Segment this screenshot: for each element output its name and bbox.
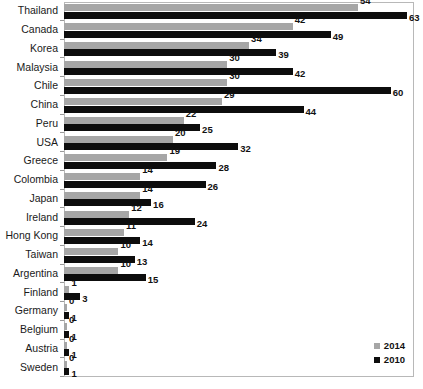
axis-tick: [60, 376, 64, 377]
category-row: Greece1928: [0, 152, 423, 171]
category-row: Ireland1224: [0, 208, 423, 227]
legend-swatch-icon: [374, 343, 380, 349]
category-row: Argentina1015: [0, 265, 423, 284]
category-row: Chile3060: [0, 77, 423, 96]
bar-2010-malaysia: [64, 68, 293, 75]
legend-swatch-icon: [374, 357, 380, 363]
bar-value-2014-finland: 1: [71, 278, 76, 288]
bar-2014-korea: [64, 42, 249, 49]
category-label-china: China: [0, 99, 58, 110]
bar-2010-colombia: [64, 181, 206, 188]
bar-value-2014-chile: 30: [229, 71, 240, 81]
category-label-chile: Chile: [0, 80, 58, 91]
category-row: Canada4249: [0, 21, 423, 40]
bar-2014-thailand: [64, 4, 358, 11]
category-row: Thailand5463: [0, 2, 423, 21]
category-label-malaysia: Malaysia: [0, 62, 58, 73]
category-label-greece: Greece: [0, 155, 58, 166]
category-row: Malaysia3042: [0, 58, 423, 77]
bar-2014-colombia: [64, 173, 140, 180]
bar-value-2014-belgium: 0: [69, 315, 74, 325]
legend-item-2010[interactable]: 2010: [374, 353, 405, 367]
bar-2014-austria: [64, 342, 67, 349]
bar-value-2014-china: 29: [224, 90, 235, 100]
category-label-germany: Germany: [0, 305, 58, 316]
bar-value-2014-greece: 19: [169, 146, 180, 156]
bar-value-2014-sweden: 0: [69, 353, 74, 363]
bar-2014-greece: [64, 154, 167, 161]
category-row: USA2032: [0, 133, 423, 152]
chart-legend: 20142010: [374, 339, 405, 367]
category-label-belgium: Belgium: [0, 324, 58, 335]
bar-value-2014-argentina: 10: [120, 259, 131, 269]
category-label-thailand: Thailand: [0, 5, 58, 16]
category-row: Belgium01: [0, 321, 423, 340]
bar-value-2014-austria: 0: [69, 334, 74, 344]
bar-value-2014-hong-kong: 11: [126, 221, 136, 231]
category-row: Hong Kong1114: [0, 227, 423, 246]
bar-2014-argentina: [64, 267, 118, 274]
bar-2014-canada: [64, 23, 293, 30]
category-row: Peru2225: [0, 115, 423, 134]
bar-value-2014-japan: 14: [142, 184, 153, 194]
bar-2014-chile: [64, 79, 227, 86]
bar-chart: Thailand5463Canada4249Korea3439Malaysia3…: [0, 0, 423, 389]
bar-2010-sweden: [64, 368, 69, 375]
category-row: China2944: [0, 96, 423, 115]
bar-2014-malaysia: [64, 61, 227, 68]
category-label-finland: Finland: [0, 287, 58, 298]
bar-value-2010-sweden: 1: [71, 369, 76, 379]
bar-2014-peru: [64, 117, 184, 124]
category-label-sweden: Sweden: [0, 362, 58, 373]
bar-2014-hong-kong: [64, 229, 124, 236]
bar-2010-greece: [64, 162, 216, 169]
bar-value-2014-colombia: 14: [142, 165, 153, 175]
category-row: Austria01: [0, 340, 423, 359]
category-label-colombia: Colombia: [0, 174, 58, 185]
bar-2010-canada: [64, 31, 331, 38]
bar-value-2014-usa: 20: [175, 128, 186, 138]
bar-2014-sweden: [64, 361, 67, 368]
bar-2014-belgium: [64, 323, 67, 330]
category-row: Germany01: [0, 302, 423, 321]
category-row: Colombia1426: [0, 171, 423, 190]
category-label-hong-kong: Hong Kong: [0, 230, 58, 241]
bar-value-2014-canada: 42: [295, 15, 306, 25]
category-row: Sweden01: [0, 358, 423, 377]
legend-label: 2010: [384, 353, 405, 367]
bar-2014-china: [64, 98, 222, 105]
category-label-austria: Austria: [0, 343, 58, 354]
bar-2014-usa: [64, 136, 173, 143]
bar-2014-germany: [64, 304, 67, 311]
category-label-korea: Korea: [0, 43, 58, 54]
category-label-argentina: Argentina: [0, 268, 58, 279]
bar-value-2014-malaysia: 30: [229, 53, 240, 63]
legend-item-2014[interactable]: 2014: [374, 339, 405, 353]
bar-2014-ireland: [64, 211, 129, 218]
category-label-taiwan: Taiwan: [0, 249, 58, 260]
bar-2010-thailand: [64, 12, 407, 19]
bar-2014-finland: [64, 286, 69, 293]
bar-2010-china: [64, 106, 304, 113]
category-label-ireland: Ireland: [0, 212, 58, 223]
bar-value-2014-taiwan: 10: [120, 240, 131, 250]
legend-label: 2014: [384, 339, 405, 353]
bar-value-2014-thailand: 54: [360, 0, 371, 6]
bar-2014-japan: [64, 192, 140, 199]
bar-value-2014-korea: 34: [251, 34, 262, 44]
category-row: Korea3439: [0, 40, 423, 59]
bar-value-2014-peru: 22: [186, 109, 197, 119]
category-label-usa: USA: [0, 137, 58, 148]
bar-2010-usa: [64, 143, 238, 150]
bar-value-2014-germany: 0: [69, 296, 74, 306]
bar-2010-korea: [64, 49, 276, 56]
category-label-peru: Peru: [0, 118, 58, 129]
bar-2014-taiwan: [64, 248, 118, 255]
category-row: Taiwan1013: [0, 246, 423, 265]
category-label-japan: Japan: [0, 193, 58, 204]
bar-value-2014-ireland: 12: [131, 203, 142, 213]
category-row: Finland13: [0, 283, 423, 302]
category-row: Japan1416: [0, 190, 423, 209]
category-label-canada: Canada: [0, 24, 58, 35]
